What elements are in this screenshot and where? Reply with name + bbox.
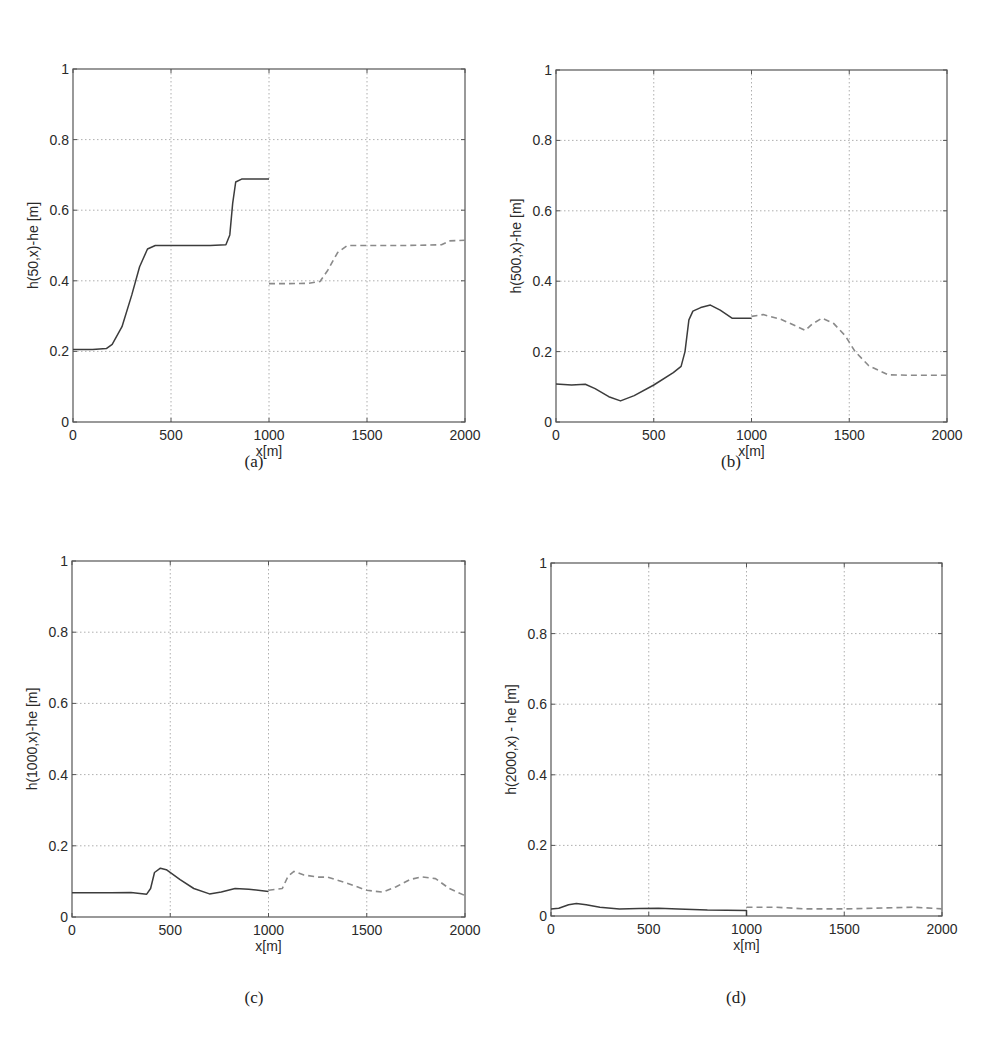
- x-tick-label: 0: [547, 921, 555, 937]
- figure-canvas: 050010001500200000.20.40.60.81x[m]h(50,x…: [0, 0, 1003, 1040]
- y-tick-label: 0.6: [50, 202, 70, 218]
- chart-panel-d: 050010001500200000.20.40.60.81x[m]h(2000…: [503, 555, 958, 953]
- x-tick-label: 1000: [253, 427, 284, 443]
- x-tick-label: 500: [642, 427, 666, 443]
- y-axis-label: h(1000,x)-he [m]: [24, 688, 40, 791]
- y-tick-label: 0: [61, 414, 69, 430]
- x-tick-label: 2000: [926, 921, 957, 937]
- x-tick-labels: 0500100015002000: [68, 561, 481, 938]
- x-tick-label: 1000: [736, 427, 767, 443]
- y-tick-label: 0.4: [528, 767, 548, 783]
- y-tick-label: 0.6: [533, 203, 553, 219]
- figure: 050010001500200000.20.40.60.81x[m]h(50,x…: [0, 0, 1003, 1040]
- x-tick-label: 0: [68, 922, 76, 938]
- y-tick-label: 0.2: [528, 837, 548, 853]
- caption-b: (b): [701, 452, 761, 472]
- x-tick-label: 1500: [829, 921, 860, 937]
- caption-d: (d): [706, 988, 766, 1008]
- y-tick-label: 0: [60, 909, 68, 925]
- y-tick-labels: 00.20.40.60.81: [49, 553, 465, 925]
- y-tick-label: 0: [539, 908, 547, 924]
- chart-panel-c: 050010001500200000.20.40.60.81x[m]h(1000…: [24, 553, 481, 954]
- x-tick-label: 1000: [731, 921, 762, 937]
- y-tick-labels: 00.20.40.60.81: [533, 62, 947, 430]
- x-tick-label: 1500: [351, 427, 382, 443]
- y-tick-label: 0.4: [533, 273, 553, 289]
- x-tick-label: 2000: [449, 922, 480, 938]
- x-tick-label: 0: [552, 427, 560, 443]
- y-axis-label: h(50,x)-he [m]: [25, 202, 41, 289]
- y-tick-label: 0.8: [533, 132, 553, 148]
- y-tick-labels: 00.20.40.60.81: [528, 555, 942, 924]
- caption-a: (a): [224, 452, 284, 472]
- x-tick-label: 1500: [351, 922, 382, 938]
- y-tick-label: 0.2: [50, 343, 70, 359]
- y-tick-label: 1: [539, 555, 547, 571]
- x-tick-label: 1500: [834, 427, 865, 443]
- y-tick-label: 0: [544, 414, 552, 430]
- y-tick-label: 0.4: [50, 273, 70, 289]
- x-tick-label: 500: [159, 427, 183, 443]
- caption-c: (c): [224, 988, 284, 1008]
- y-axis-label: h(500,x)-he [m]: [508, 199, 524, 294]
- y-tick-label: 0.8: [50, 132, 70, 148]
- x-axis-label: x[m]: [255, 938, 281, 954]
- x-tick-label: 500: [637, 921, 661, 937]
- x-tick-label: 1000: [253, 922, 284, 938]
- y-tick-label: 0.8: [49, 624, 69, 640]
- x-tick-label: 0: [69, 427, 77, 443]
- y-tick-label: 0.6: [49, 695, 69, 711]
- y-tick-label: 0.8: [528, 626, 548, 642]
- x-axis-label: x[m]: [733, 937, 759, 953]
- y-tick-label: 1: [544, 62, 552, 78]
- x-tick-labels: 0500100015002000: [69, 69, 481, 443]
- chart-panel-a: 050010001500200000.20.40.60.81x[m]h(50,x…: [25, 61, 481, 459]
- x-tick-labels: 0500100015002000: [547, 563, 958, 937]
- series-dashed-line: [269, 871, 466, 895]
- y-tick-label: 0.6: [528, 696, 548, 712]
- y-tick-label: 1: [61, 61, 69, 77]
- y-tick-label: 0.2: [533, 344, 553, 360]
- y-axis-label: h(2000,x) - he [m]: [503, 684, 519, 795]
- series-solid-line: [73, 179, 269, 350]
- y-tick-label: 0.4: [49, 767, 69, 783]
- grid: [551, 563, 942, 916]
- x-tick-label: 2000: [449, 427, 480, 443]
- x-tick-label: 500: [159, 922, 183, 938]
- x-tick-labels: 0500100015002000: [552, 70, 963, 443]
- y-tick-label: 0.2: [49, 838, 69, 854]
- chart-panel-b: 050010001500200000.20.40.60.81x[m]h(500,…: [508, 62, 963, 459]
- grid: [556, 70, 947, 422]
- y-tick-label: 1: [60, 553, 68, 569]
- grid: [72, 561, 465, 917]
- x-tick-label: 2000: [931, 427, 962, 443]
